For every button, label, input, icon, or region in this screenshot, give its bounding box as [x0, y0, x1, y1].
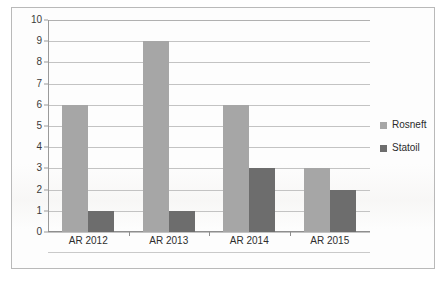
y-tick-label-4: 4: [36, 142, 42, 152]
y-tick-label-10: 10: [31, 15, 42, 25]
x-axis-label-baseline: [48, 252, 370, 253]
y-tick-label-5: 5: [36, 121, 42, 131]
y-tick-label-2: 2: [36, 185, 42, 195]
bar-rosneft-ar-2013[interactable]: [143, 41, 169, 232]
x-axis-labels-group: AR 2012AR 2013AR 2014AR 2015: [48, 236, 370, 246]
y-tick-label-9: 9: [36, 36, 42, 46]
legend-swatch-rosneft: [380, 122, 387, 129]
y-tick-label-0: 0: [36, 227, 42, 237]
plot-area: 109876543210: [48, 20, 370, 232]
chart-figure: 109876543210 AR 2012AR 2013AR 2014AR 201…: [11, 7, 435, 269]
chart-legend: RosneftStatoil: [380, 120, 434, 166]
legend-label-rosneft: Rosneft: [392, 120, 426, 130]
bar-statoil-ar-2014[interactable]: [249, 168, 275, 232]
bar-group-ar-2013: [129, 20, 210, 232]
legend-item-statoil[interactable]: Statoil: [380, 143, 434, 153]
y-tick-label-7: 7: [36, 79, 42, 89]
bar-group-ar-2014: [209, 20, 290, 232]
y-tick-label-8: 8: [36, 57, 42, 67]
x-axis-label-ar-2013: AR 2013: [129, 236, 210, 246]
y-tick-label-1: 1: [36, 206, 42, 216]
bar-statoil-ar-2013[interactable]: [169, 211, 195, 232]
bar-group-ar-2015: [290, 20, 371, 232]
bar-group-ar-2012: [48, 20, 129, 232]
bar-statoil-ar-2015[interactable]: [330, 190, 356, 232]
x-axis-label-ar-2012: AR 2012: [48, 236, 129, 246]
bar-rosneft-ar-2014[interactable]: [223, 105, 249, 232]
bar-rosneft-ar-2012[interactable]: [62, 105, 88, 232]
legend-swatch-statoil: [380, 145, 387, 152]
bar-rosneft-ar-2015[interactable]: [304, 168, 330, 232]
bar-statoil-ar-2012[interactable]: [88, 211, 114, 232]
legend-label-statoil: Statoil: [392, 143, 420, 153]
bars-group: [48, 20, 370, 232]
y-tick-label-3: 3: [36, 163, 42, 173]
legend-item-rosneft[interactable]: Rosneft: [380, 120, 434, 130]
x-axis-label-ar-2015: AR 2015: [290, 236, 371, 246]
x-axis-label-ar-2014: AR 2014: [209, 236, 290, 246]
y-tick-label-6: 6: [36, 100, 42, 110]
